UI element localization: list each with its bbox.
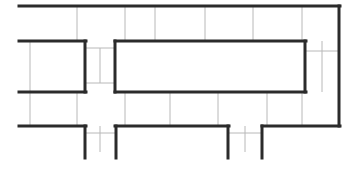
plan-background <box>0 0 357 171</box>
floor-plan-canvas <box>0 0 357 171</box>
floor-plan-drawing <box>0 0 357 171</box>
